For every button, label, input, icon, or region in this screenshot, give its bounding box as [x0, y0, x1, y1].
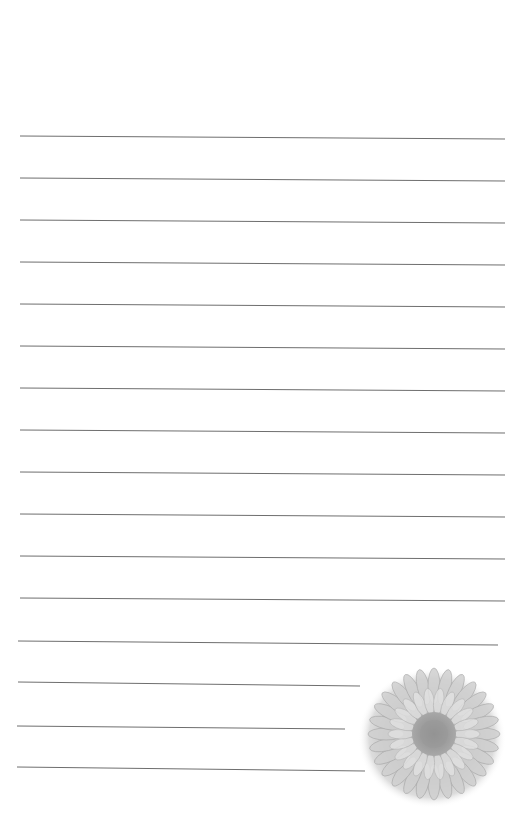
- notepaper-page: [0, 0, 527, 813]
- ruled-line: [20, 262, 505, 265]
- ruled-line: [18, 641, 498, 645]
- ruled-line: [20, 346, 505, 349]
- flower-icon: [352, 660, 512, 810]
- ruled-line: [20, 514, 505, 517]
- ruled-line: [20, 556, 505, 559]
- ruled-line: [20, 598, 505, 601]
- ruled-line: [20, 178, 505, 181]
- ruled-line: [20, 388, 505, 391]
- ruled-line: [20, 220, 505, 223]
- ruled-line: [17, 726, 345, 729]
- ruled-line: [17, 767, 365, 771]
- ruled-line: [20, 304, 505, 307]
- ruled-line: [20, 136, 505, 139]
- ruled-line: [20, 472, 505, 475]
- ruled-line: [20, 430, 505, 433]
- ruled-line: [18, 682, 360, 686]
